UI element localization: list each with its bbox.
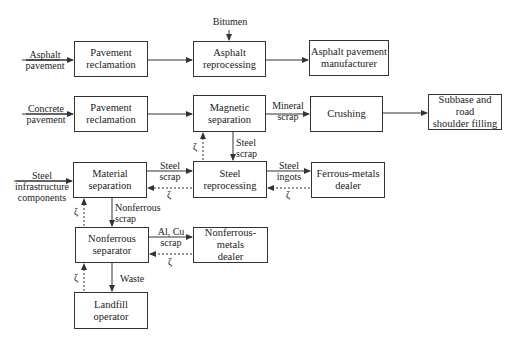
input-underlines [0,0,520,344]
